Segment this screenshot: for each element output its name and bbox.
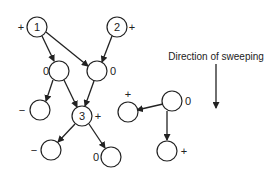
node-d-sign: − bbox=[31, 144, 37, 156]
node-f bbox=[118, 102, 138, 122]
node-3-label: 3 bbox=[79, 110, 85, 122]
node-h-sign: + bbox=[181, 145, 187, 157]
node-d bbox=[41, 140, 61, 160]
node-2-sign: + bbox=[129, 21, 135, 33]
sweep-caption: Direction of sweeping bbox=[168, 51, 264, 62]
node-b-sign: 0 bbox=[110, 65, 116, 77]
node-b bbox=[87, 61, 107, 81]
node-a-sign: 0 bbox=[43, 65, 49, 77]
edge-b-3 bbox=[85, 81, 94, 106]
node-1-sign: + bbox=[18, 21, 24, 33]
node-3-sign: + bbox=[95, 110, 101, 122]
node-1-label: 1 bbox=[34, 21, 40, 33]
node-f-sign: + bbox=[125, 88, 131, 100]
node-g bbox=[162, 91, 182, 111]
edge-a-c bbox=[46, 80, 53, 101]
edge-3-e bbox=[89, 124, 105, 148]
node-c bbox=[30, 100, 50, 120]
edge-g-f bbox=[137, 104, 163, 110]
edge-1-b bbox=[46, 32, 88, 66]
node-a bbox=[49, 61, 69, 81]
edge-a-3 bbox=[64, 80, 77, 107]
edge-1-a bbox=[42, 36, 54, 61]
edge-2-b bbox=[102, 36, 112, 62]
node-e-sign: 0 bbox=[93, 151, 99, 163]
node-h bbox=[157, 141, 177, 161]
node-g-sign: 0 bbox=[185, 95, 191, 107]
node-c-sign: − bbox=[19, 104, 25, 116]
sweeping-diagram: 1 2 3 + + 0 0 − + − 0 + 0 + Direction of… bbox=[0, 0, 273, 175]
node-e bbox=[101, 147, 121, 167]
node-2-label: 2 bbox=[114, 21, 120, 33]
edge-3-d bbox=[58, 124, 75, 142]
